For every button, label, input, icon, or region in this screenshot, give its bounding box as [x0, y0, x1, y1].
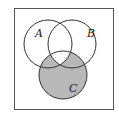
label-a: A	[34, 27, 43, 40]
label-b: B	[86, 27, 95, 40]
label-c: C	[69, 82, 78, 95]
venn-diagram: A B C	[0, 0, 119, 117]
